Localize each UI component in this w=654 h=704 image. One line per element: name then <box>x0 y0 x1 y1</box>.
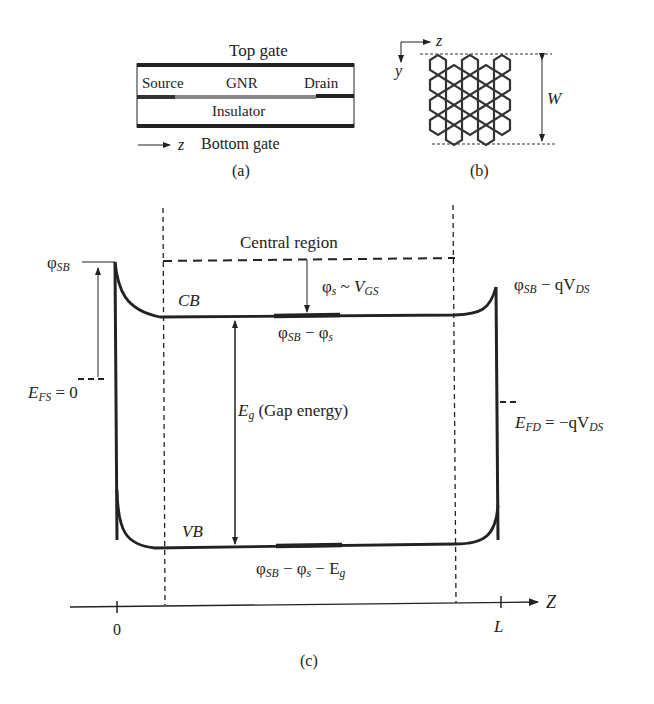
width-label: W <box>547 90 561 107</box>
axis-l-label: L <box>494 618 503 635</box>
drain-label: Drain <box>304 76 338 91</box>
graphene-lattice <box>401 42 556 145</box>
source-label: Source <box>142 76 184 91</box>
caption-b: (b) <box>470 163 489 179</box>
axis-zero-label: 0 <box>113 622 121 638</box>
axis-z-label: Z <box>546 593 556 611</box>
top-gate-label: Top gate <box>229 42 288 59</box>
efs-label: EFS = 0 <box>28 384 78 404</box>
vb-label: VB <box>182 523 203 540</box>
phi-sb-label: φSB <box>47 254 70 274</box>
efd-label: EFD = −qVDS <box>515 414 603 434</box>
cb-energy-label: φSB − φs <box>278 324 333 344</box>
insulator-label: Insulator <box>212 104 265 119</box>
gnr-label: GNR <box>226 76 258 91</box>
drain-barrier-label: φSB − qVDS <box>514 276 590 296</box>
z-axis-label-b: z <box>436 33 442 49</box>
caption-c: (c) <box>300 653 318 669</box>
z-axis-label: z <box>178 137 184 153</box>
cb-label: CB <box>178 292 200 309</box>
central-region-label: Central region <box>240 234 338 251</box>
phi-s-vgs-label: φs ~ VGS <box>322 278 379 298</box>
vb-energy-label: φSB − φs − Eg <box>256 560 345 580</box>
bottom-gate-label: Bottom gate <box>201 136 280 152</box>
caption-a: (a) <box>232 163 250 179</box>
gap-energy-label: Eg (Gap energy) <box>238 402 348 422</box>
y-axis-label-b: y <box>395 63 402 79</box>
